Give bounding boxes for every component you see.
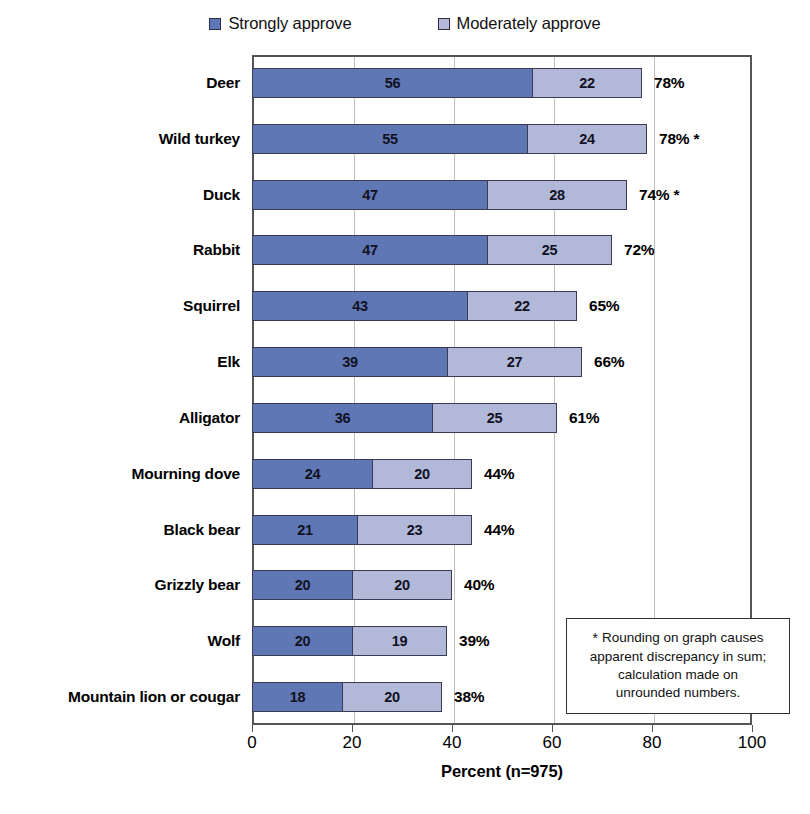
x-axis-tick: [552, 725, 553, 732]
bar-segment-strongly-approve: 47: [252, 180, 487, 210]
stacked-bar: 5622: [252, 68, 642, 98]
stacked-bar: 1820: [252, 682, 442, 712]
bar-value-moderately-approve: 20: [414, 466, 430, 482]
legend-item-strongly-approve: Strongly approve: [209, 14, 351, 33]
x-axis-tick-label: 40: [443, 733, 462, 753]
category-label: Grizzly bear: [0, 576, 240, 594]
bar-row: Squirrel432265%: [0, 278, 810, 334]
bar-segment-moderately-approve: 24: [527, 124, 647, 154]
bar-value-strongly-approve: 55: [382, 131, 398, 147]
stacked-bar-chart: Strongly approve Moderately approve Deer…: [0, 0, 810, 814]
x-axis-tick-label: 20: [343, 733, 362, 753]
bar-segment-moderately-approve: 20: [342, 682, 442, 712]
x-axis-tick-label: 60: [543, 733, 562, 753]
bar-value-moderately-approve: 25: [542, 242, 558, 258]
bar-total-label: 74% *: [639, 186, 679, 204]
category-label: Squirrel: [0, 297, 240, 315]
stacked-bar: 2020: [252, 570, 452, 600]
stacked-bar: 2420: [252, 459, 472, 489]
x-axis: 020406080100: [252, 725, 752, 726]
bar-segment-moderately-approve: 19: [352, 626, 447, 656]
bar-row: Duck472874% *: [0, 167, 810, 223]
bar-segment-strongly-approve: 56: [252, 68, 532, 98]
x-axis-title: Percent (n=975): [252, 762, 752, 781]
bar-segment-moderately-approve: 20: [372, 459, 472, 489]
stacked-bar: 5524: [252, 124, 647, 154]
footnote-line-3: calculation made on: [618, 667, 738, 682]
footnote-line-1: Rounding on graph causes: [602, 630, 763, 645]
bar-segment-strongly-approve: 55: [252, 124, 527, 154]
bar-value-moderately-approve: 25: [487, 410, 503, 426]
bar-segment-strongly-approve: 24: [252, 459, 372, 489]
bar-segment-strongly-approve: 20: [252, 570, 352, 600]
bar-row: Rabbit472572%: [0, 222, 810, 278]
stacked-bar: 3625: [252, 403, 557, 433]
bar-value-strongly-approve: 24: [305, 466, 321, 482]
footnote-line-2: apparent discrepancy in sum;: [590, 649, 766, 664]
bar-value-moderately-approve: 20: [384, 689, 400, 705]
bar-total-label: 40%: [464, 576, 494, 594]
bar-value-moderately-approve: 19: [392, 633, 408, 649]
bar-value-strongly-approve: 18: [290, 689, 306, 705]
category-label: Duck: [0, 186, 240, 204]
bar-segment-strongly-approve: 21: [252, 515, 357, 545]
bar-segment-strongly-approve: 20: [252, 626, 352, 656]
bar-segment-strongly-approve: 43: [252, 291, 467, 321]
bar-total-label: 44%: [484, 465, 514, 483]
legend-label-moderately-approve: Moderately approve: [457, 14, 601, 33]
bar-value-strongly-approve: 47: [362, 187, 378, 203]
x-axis-tick: [252, 725, 253, 732]
bar-value-strongly-approve: 43: [352, 298, 368, 314]
bar-segment-strongly-approve: 39: [252, 347, 447, 377]
bar-value-strongly-approve: 20: [295, 577, 311, 593]
bar-value-strongly-approve: 20: [295, 633, 311, 649]
bar-total-label: 66%: [594, 353, 624, 371]
category-label: Mountain lion or cougar: [0, 688, 240, 706]
x-axis-tick-label: 80: [643, 733, 662, 753]
bar-row: Wild turkey552478% *: [0, 111, 810, 167]
bar-total-label: 78%: [654, 74, 684, 92]
bar-total-label: 61%: [569, 409, 599, 427]
stacked-bar: 4728: [252, 180, 627, 210]
x-axis-tick: [752, 725, 753, 732]
legend-item-moderately-approve: Moderately approve: [438, 14, 601, 33]
bar-segment-moderately-approve: 25: [487, 235, 612, 265]
x-axis-tick: [652, 725, 653, 732]
bar-segment-moderately-approve: 22: [532, 68, 642, 98]
bar-total-label: 44%: [484, 521, 514, 539]
bar-segment-moderately-approve: 23: [357, 515, 472, 545]
stacked-bar: 2123: [252, 515, 472, 545]
bar-total-label: 39%: [459, 632, 489, 650]
x-axis-tick-label: 100: [738, 733, 766, 753]
bar-segment-strongly-approve: 36: [252, 403, 432, 433]
bar-row: Deer562278%: [0, 55, 810, 111]
bar-row: Mourning dove242044%: [0, 446, 810, 502]
bar-segment-moderately-approve: 27: [447, 347, 582, 377]
bar-total-label: 72%: [624, 241, 654, 259]
category-label: Wolf: [0, 632, 240, 650]
bar-value-strongly-approve: 56: [385, 75, 401, 91]
legend-swatch-icon-moderately-approve: [438, 18, 450, 30]
x-axis-tick: [452, 725, 453, 732]
legend-swatch-icon-strongly-approve: [209, 18, 221, 30]
bar-segment-strongly-approve: 47: [252, 235, 487, 265]
bar-value-strongly-approve: 39: [342, 354, 358, 370]
footnote-star: *: [593, 630, 598, 646]
category-label: Alligator: [0, 409, 240, 427]
category-label: Elk: [0, 353, 240, 371]
bar-row: Elk392766%: [0, 334, 810, 390]
bar-segment-moderately-approve: 25: [432, 403, 557, 433]
bar-row: Grizzly bear202040%: [0, 557, 810, 613]
bar-row: Black bear212344%: [0, 502, 810, 558]
legend-label-strongly-approve: Strongly approve: [228, 14, 351, 33]
bar-value-moderately-approve: 27: [507, 354, 523, 370]
category-label: Deer: [0, 74, 240, 92]
footnote-callout: *Rounding on graph causes apparent discr…: [566, 618, 790, 714]
bar-value-strongly-approve: 47: [362, 242, 378, 258]
bar-segment-moderately-approve: 20: [352, 570, 452, 600]
bar-value-moderately-approve: 28: [549, 187, 565, 203]
x-axis-tick-label: 0: [247, 733, 256, 753]
stacked-bar: 2019: [252, 626, 447, 656]
bar-segment-moderately-approve: 22: [467, 291, 577, 321]
bar-value-moderately-approve: 22: [579, 75, 595, 91]
